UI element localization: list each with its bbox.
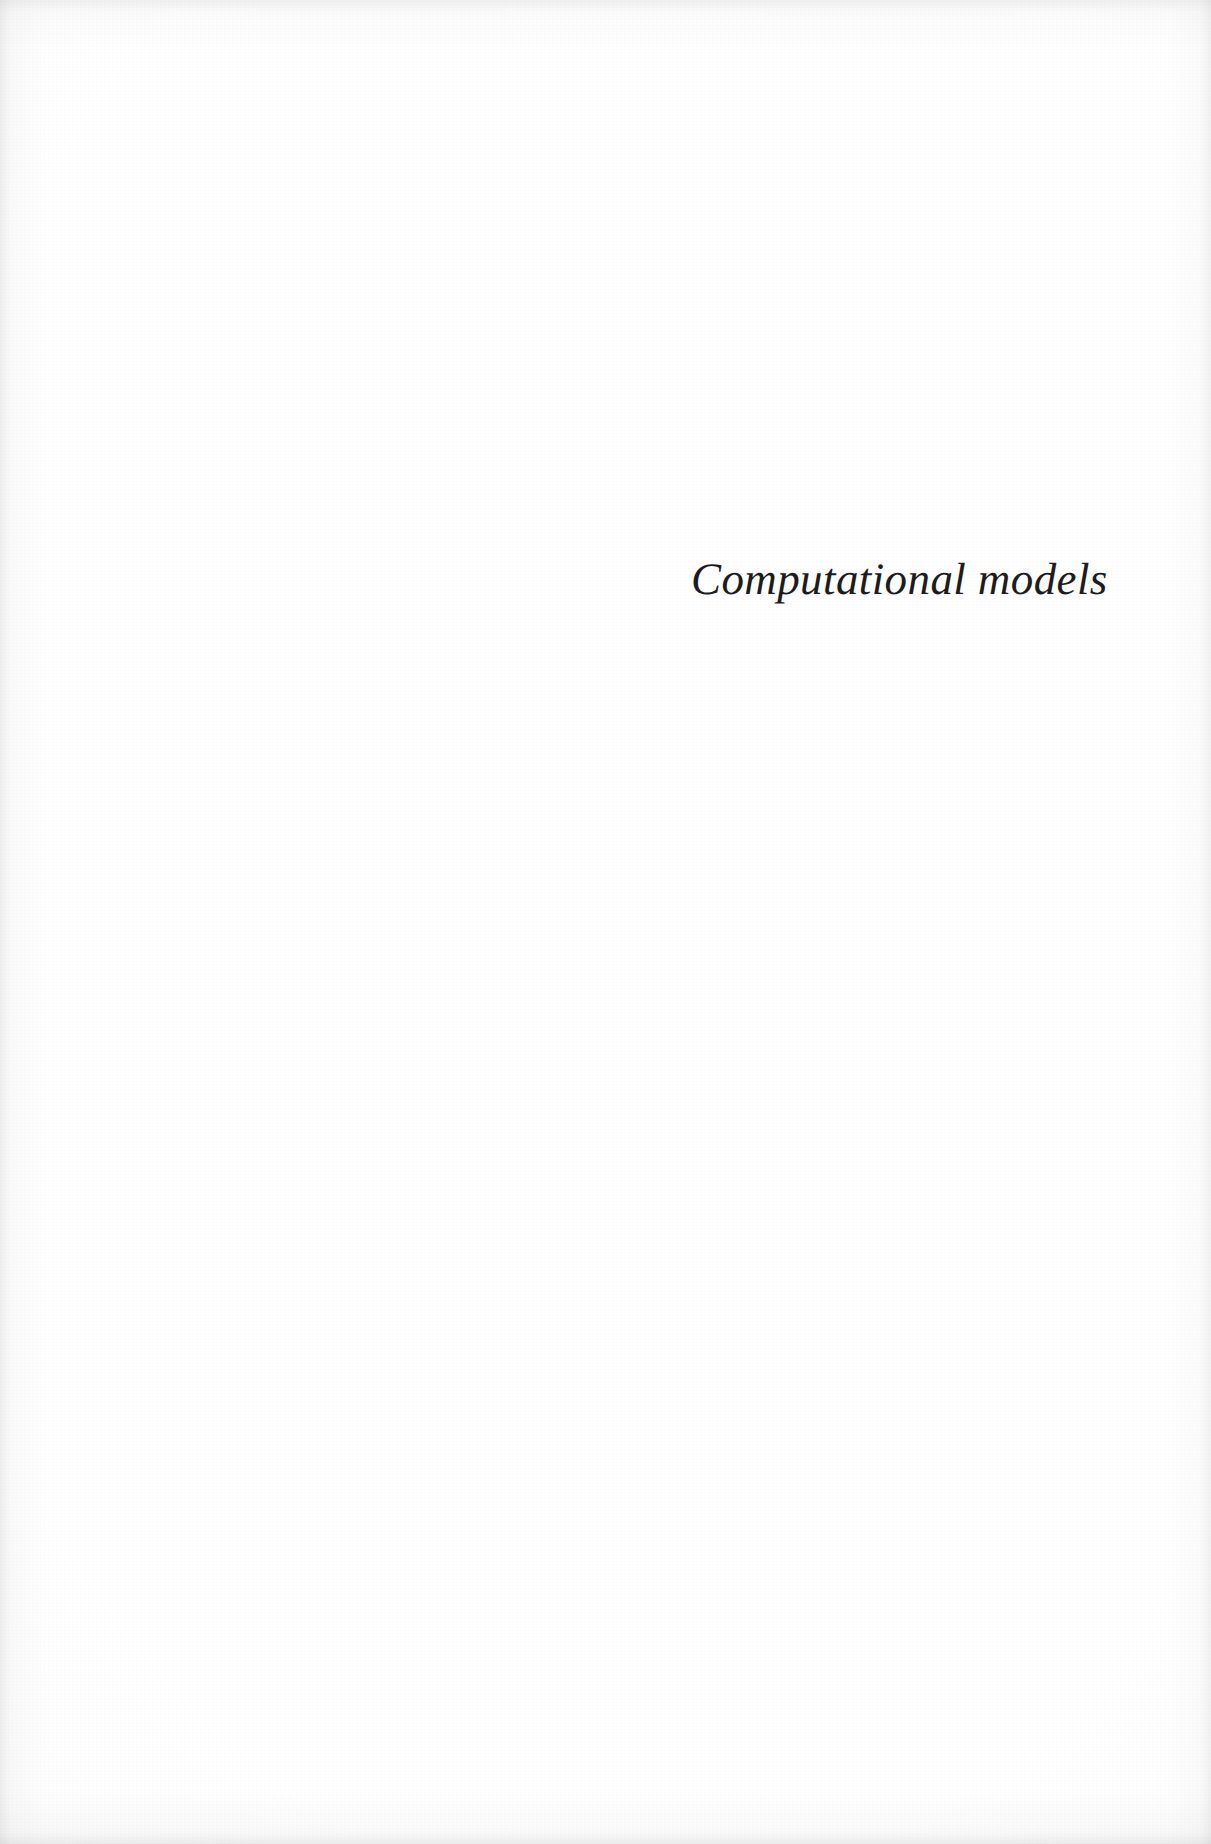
scanned-page: Computational models	[0, 0, 1211, 1844]
section-title: Computational models	[691, 553, 1108, 605]
page-body-blank-area	[0, 640, 1211, 1844]
